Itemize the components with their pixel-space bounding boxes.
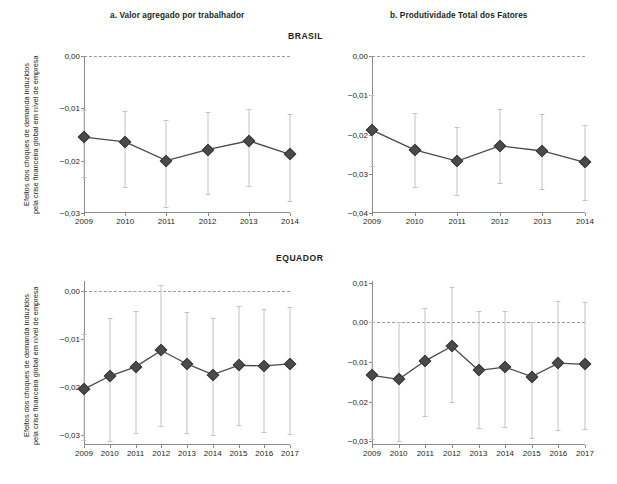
x-tick-mark — [457, 213, 458, 216]
data-point-marker — [472, 364, 485, 377]
x-tick-mark — [208, 213, 209, 216]
x-tick-mark — [161, 445, 162, 448]
error-bar-cap — [185, 312, 190, 313]
error-bar-cap — [583, 125, 588, 126]
error-bar-cap — [449, 402, 454, 403]
error-bar-cap — [556, 430, 561, 431]
data-point-marker — [119, 135, 132, 148]
error-bar-cap — [205, 112, 210, 113]
error-bar-cap — [503, 311, 508, 312]
x-tick-mark — [264, 445, 265, 448]
error-bar-cap — [185, 433, 190, 434]
error-bar-cap — [107, 441, 112, 442]
data-point-marker — [242, 134, 255, 147]
y-axis-label-top: Efeitos dos choques de demanda induzidos… — [23, 45, 43, 225]
error-bar-cap — [423, 308, 428, 309]
error-bar-cap — [370, 439, 375, 440]
error-bar-cap — [529, 322, 534, 323]
y-tick-mark — [369, 174, 372, 175]
error-bar-cap — [133, 311, 138, 312]
series-line — [84, 56, 290, 213]
error-bar-cap — [497, 183, 502, 184]
series-line — [372, 56, 585, 213]
y-axis-label-bottom: Efeitos dos choques de demanda induzidos… — [23, 276, 43, 456]
data-point-marker — [392, 373, 405, 386]
error-bar-cap — [159, 426, 164, 427]
x-tick-mark — [249, 213, 250, 216]
x-tick-mark — [415, 213, 416, 216]
error-bar-cap — [455, 195, 460, 196]
error-bar-cap — [540, 114, 545, 115]
figure-root: a. Valor agregado por trabalhador b. Pro… — [0, 0, 617, 484]
error-bar-cap — [497, 109, 502, 110]
error-bar — [125, 111, 126, 187]
error-bar-cap — [159, 285, 164, 286]
x-tick-mark — [558, 445, 559, 448]
x-tick-mark — [166, 213, 167, 216]
error-bar-cap — [423, 416, 428, 417]
data-point-marker — [579, 156, 592, 169]
error-bar-cap — [123, 111, 128, 112]
error-bar-cap — [449, 287, 454, 288]
y-axis-label-top-line2: pela crise financeira global em nível de… — [32, 45, 41, 225]
y-tick-mark — [369, 441, 372, 442]
error-bar-cap — [529, 438, 534, 439]
data-point-marker — [201, 143, 214, 156]
y-axis-label-bottom-line2: pela crise financeira global em nível de… — [32, 276, 41, 456]
error-bar-cap — [164, 207, 169, 208]
error-bar-cap — [412, 113, 417, 114]
error-bar-cap — [288, 434, 293, 435]
x-tick-mark — [399, 445, 400, 448]
chart-equador-tfp: 0,010,00−0,01−0,02−0,0320092010201120122… — [372, 281, 585, 445]
error-bar — [187, 312, 188, 433]
x-tick-mark — [479, 445, 480, 448]
error-bar-cap — [583, 429, 588, 430]
error-bar-cap — [476, 311, 481, 312]
y-tick-mark — [81, 108, 84, 109]
chart-equador-value-added: 0,00−0,01−0,02−0,03200920102011201220132… — [84, 281, 290, 445]
chart-brasil-value-added: 0,00−0,01−0,02−0,03200920102011201220132… — [84, 56, 290, 213]
error-bar-cap — [205, 194, 210, 195]
x-tick-mark — [290, 445, 291, 448]
data-point-marker — [78, 131, 91, 144]
panel-b-title: b. Produtividade Total dos Fatores — [390, 11, 527, 20]
error-bar-cap — [246, 186, 251, 187]
data-point-marker — [579, 358, 592, 371]
x-axis-line — [84, 212, 290, 213]
x-tick-mark — [187, 445, 188, 448]
x-tick-mark — [452, 445, 453, 448]
x-tick-mark — [505, 445, 506, 448]
x-axis-line — [372, 212, 585, 213]
x-tick-mark — [425, 445, 426, 448]
data-point-marker — [232, 359, 245, 372]
error-bar-cap — [540, 189, 545, 190]
data-point-marker — [160, 154, 173, 167]
data-point-marker — [181, 358, 194, 371]
x-tick-mark — [532, 445, 533, 448]
error-bar-cap — [107, 318, 112, 319]
x-tick-mark — [136, 445, 137, 448]
error-bar-cap — [82, 110, 87, 111]
error-bar-cap — [133, 433, 138, 434]
error-bar-cap — [370, 166, 375, 167]
x-tick-mark — [542, 213, 543, 216]
error-bar-cap — [370, 95, 375, 96]
error-bar-cap — [370, 322, 375, 323]
data-point-marker — [366, 369, 379, 382]
data-point-marker — [451, 155, 464, 168]
error-bar-cap — [262, 309, 267, 310]
x-tick-mark — [372, 213, 373, 216]
error-bar-cap — [82, 334, 87, 335]
error-bar-cap — [288, 114, 293, 115]
x-tick-mark — [290, 213, 291, 216]
x-tick-mark — [372, 445, 373, 448]
data-point-marker — [284, 148, 297, 161]
error-bar-cap — [123, 187, 128, 188]
error-bar-cap — [556, 301, 561, 302]
data-point-marker — [284, 358, 297, 371]
data-point-marker — [258, 360, 271, 373]
data-point-marker — [408, 143, 421, 156]
error-bar-cap — [82, 177, 87, 178]
error-bar-cap — [246, 109, 251, 110]
error-bar-cap — [583, 302, 588, 303]
